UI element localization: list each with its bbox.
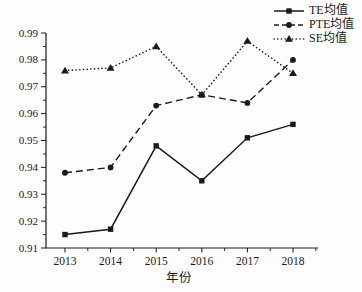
x-tick-label: 2015 [145, 255, 168, 267]
pte-legend-marker [286, 22, 292, 28]
legend-item-se: SE均值 [273, 32, 354, 45]
x-tick-label: 2013 [54, 255, 77, 267]
se-legend-marker [285, 35, 293, 42]
y-tick-label: 0.94 [19, 161, 39, 173]
y-tick-label: 0.99 [19, 27, 39, 39]
se-series-markers [61, 37, 297, 98]
legend-label-te: TE均值 [309, 4, 348, 17]
te-marker [245, 135, 250, 140]
te-marker [199, 178, 204, 183]
legend-sample-2 [273, 33, 305, 45]
legend-label-se: SE均值 [309, 32, 347, 45]
y-tick-label: 0.93 [19, 188, 39, 200]
te-marker [290, 122, 295, 127]
pte-marker [108, 164, 114, 170]
te-marker [154, 143, 159, 148]
pte-marker [290, 57, 296, 63]
te-series-markers [62, 122, 295, 238]
se-marker [243, 37, 251, 44]
se-series-line [65, 41, 293, 95]
pte-marker [245, 100, 251, 106]
y-tick-label: 0.98 [19, 53, 39, 65]
pte-series-line [65, 60, 293, 173]
legend: TE均值 PTE均值 SE均值 [273, 4, 354, 45]
pte-series-markers [62, 57, 296, 176]
te-marker [108, 226, 113, 231]
te-legend-marker [286, 8, 291, 13]
x-tick-label: 2017 [236, 255, 259, 267]
pte-marker [153, 103, 159, 109]
x-tick-label: 2016 [190, 255, 213, 267]
x-tick-label: 2014 [99, 255, 122, 267]
legend-sample-1 [273, 19, 305, 31]
y-tick-label: 0.91 [19, 242, 38, 254]
legend-item-pte: PTE均值 [273, 18, 354, 31]
legend-sample-0 [273, 5, 305, 17]
y-tick-label: 0.96 [19, 107, 39, 119]
te-series-line [65, 124, 293, 234]
se-marker [152, 42, 160, 49]
se-marker [61, 67, 69, 74]
se-marker [289, 69, 297, 76]
efficiency-line-chart: 0.910.920.930.940.950.960.970.980.992013… [0, 0, 362, 292]
x-axis-title: 年份 [53, 267, 305, 286]
x-tick-label: 2018 [282, 255, 305, 267]
y-tick-label: 0.97 [19, 80, 39, 92]
y-tick-label: 0.92 [19, 215, 38, 227]
legend-item-te: TE均值 [273, 4, 354, 17]
te-marker [62, 232, 67, 237]
y-tick-label: 0.95 [19, 134, 39, 146]
legend-label-pte: PTE均值 [309, 18, 354, 31]
pte-marker [62, 170, 68, 176]
